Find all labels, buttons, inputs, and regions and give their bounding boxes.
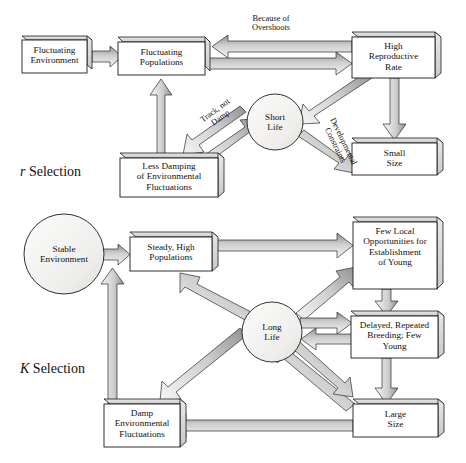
- label-large-size: Large Size: [353, 409, 438, 430]
- arrow-steadypop-to-fewlocal: [217, 233, 353, 258]
- arrow-repro-to-smallsize: [383, 78, 406, 140]
- label-fluctuating-environment: Fluctuating Environment: [22, 45, 87, 66]
- arrow-pop-to-repro: [209, 52, 352, 75]
- arrow-delayed-to-longlife: [301, 328, 352, 350]
- label-fluctuating-populations: Fluctuating Populations: [118, 47, 205, 68]
- label-stable-environment: Stable Environment: [24, 244, 104, 265]
- section-label-k-selection: K Selection: [20, 361, 130, 377]
- label-few-local-opportunities: Few Local Opportunities for Establishmen…: [352, 226, 438, 268]
- arrow-repro-to-pop-overshoots: [212, 35, 352, 58]
- label-delayed-repeated-breeding: Delayed, Repeated Breeding; Few Young: [350, 320, 439, 351]
- label-damp-environmental-fluctuations: Damp Environmental Fluctuations: [102, 408, 182, 439]
- edge-label-because-of-overshoots: Because of Overshoots: [216, 14, 326, 33]
- arrow-delayed-to-largesize: [375, 358, 398, 404]
- arrow-longlife-to-steadypop: [180, 273, 253, 320]
- arrow-dampenv-to-steadypop: [101, 268, 124, 404]
- arrow-stableenv-to-steadypop: [103, 244, 130, 265]
- label-steady-high-populations: Steady, High Populations: [130, 242, 212, 263]
- label-less-damping: Less Damping of Environmental Fluctuatio…: [120, 161, 218, 192]
- arrow-largesize-to-dampenv: [170, 413, 353, 438]
- r-k-selection-diagram: Fluctuating Environment Fluctuating Popu…: [0, 0, 466, 463]
- arrow-longlife-to-dampenv: [160, 328, 247, 401]
- label-high-reproductive-rate: High Reproductive Rate: [352, 41, 435, 72]
- arrow-longlife-to-fewlocal: [296, 267, 356, 320]
- label-long-life: Long Life: [244, 322, 300, 343]
- label-small-size: Small Size: [352, 148, 437, 169]
- arrow-lessdamp-to-pop: [150, 79, 172, 158]
- label-short-life: Short Life: [247, 112, 303, 133]
- section-label-r-selection: r Selection: [20, 164, 120, 180]
